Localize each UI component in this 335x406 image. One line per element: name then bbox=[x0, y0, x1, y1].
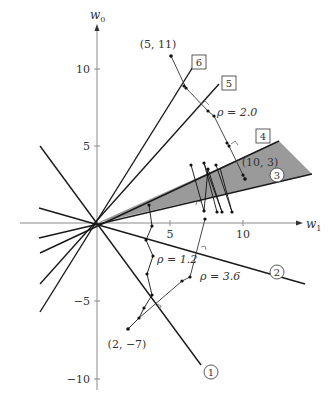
y-axis-arrow-icon bbox=[95, 24, 100, 31]
y-tick-5: 5 bbox=[83, 140, 90, 153]
y-tick-10: 10 bbox=[76, 63, 90, 76]
target-point-label: (10, 3) bbox=[242, 156, 279, 169]
constraint-lines bbox=[39, 62, 312, 365]
rho-top-label: ρ = 2.0 bbox=[216, 106, 257, 119]
svg-text:3: 3 bbox=[274, 170, 280, 181]
diagram-stage: w1 w0 5 10 10 5 −5 −10 bbox=[0, 0, 335, 406]
svg-text:2: 2 bbox=[274, 267, 280, 278]
x-axis-label: w1 bbox=[306, 217, 321, 233]
ray-label-5: 5 bbox=[222, 76, 236, 90]
start-point-bottom-label: (2, −7) bbox=[108, 338, 147, 351]
x-tick-5: 5 bbox=[167, 228, 174, 241]
svg-text:1: 1 bbox=[208, 367, 214, 378]
weight-space-diagram: w1 w0 5 10 10 5 −5 −10 bbox=[0, 0, 335, 406]
x-axis-arrow-icon bbox=[296, 221, 303, 226]
x-tick-10: 10 bbox=[236, 228, 250, 241]
svg-text:6: 6 bbox=[196, 57, 202, 68]
svg-text:5: 5 bbox=[226, 78, 232, 89]
y-axis-label: w0 bbox=[90, 8, 105, 24]
y-tick-neg5: −5 bbox=[74, 295, 90, 308]
ray-label-4: 4 bbox=[256, 129, 270, 143]
ray-label-2: 2 bbox=[270, 265, 284, 279]
start-point-top-label: (5, 11) bbox=[140, 38, 177, 51]
ray-label-3: 3 bbox=[270, 168, 284, 182]
ray-label-1: 1 bbox=[204, 365, 218, 379]
ray-label-6: 6 bbox=[192, 55, 206, 69]
trajectory-left bbox=[128, 205, 153, 329]
y-tick-neg10: −10 bbox=[67, 373, 90, 386]
rho-low-label: ρ = 3.6 bbox=[199, 270, 240, 283]
svg-text:4: 4 bbox=[260, 131, 266, 142]
rho-mid-label: ρ = 1.2 bbox=[156, 253, 197, 266]
